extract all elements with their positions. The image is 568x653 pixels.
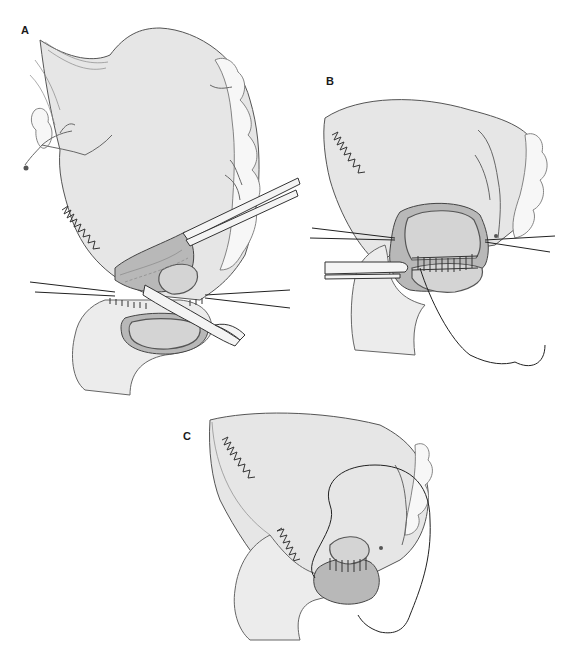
illustration [0,0,568,653]
stomach-c [209,413,428,588]
needle-b[interactable] [515,345,545,366]
panel-a [24,28,301,395]
traction-suture-a-left [30,282,115,296]
needle-c[interactable] [358,615,410,633]
panel-c [209,413,432,640]
anastomosis-c [314,558,380,604]
traction-suture-a-right [205,290,290,308]
panel-b [310,100,555,366]
forceps-b[interactable] [325,262,408,274]
